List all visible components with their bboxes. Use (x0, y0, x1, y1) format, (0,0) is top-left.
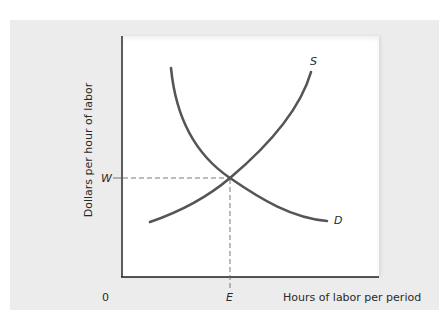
wage-label: W (101, 173, 112, 184)
y-axis-title: Dollars per hour of labor (82, 83, 95, 217)
origin-label: 0 (102, 292, 109, 303)
employment-label: E (226, 292, 233, 303)
labor-market-chart (0, 0, 439, 321)
supply-label: S (310, 56, 317, 67)
x-axis-title: Hours of labor per period (283, 292, 421, 303)
demand-label: D (334, 215, 342, 226)
